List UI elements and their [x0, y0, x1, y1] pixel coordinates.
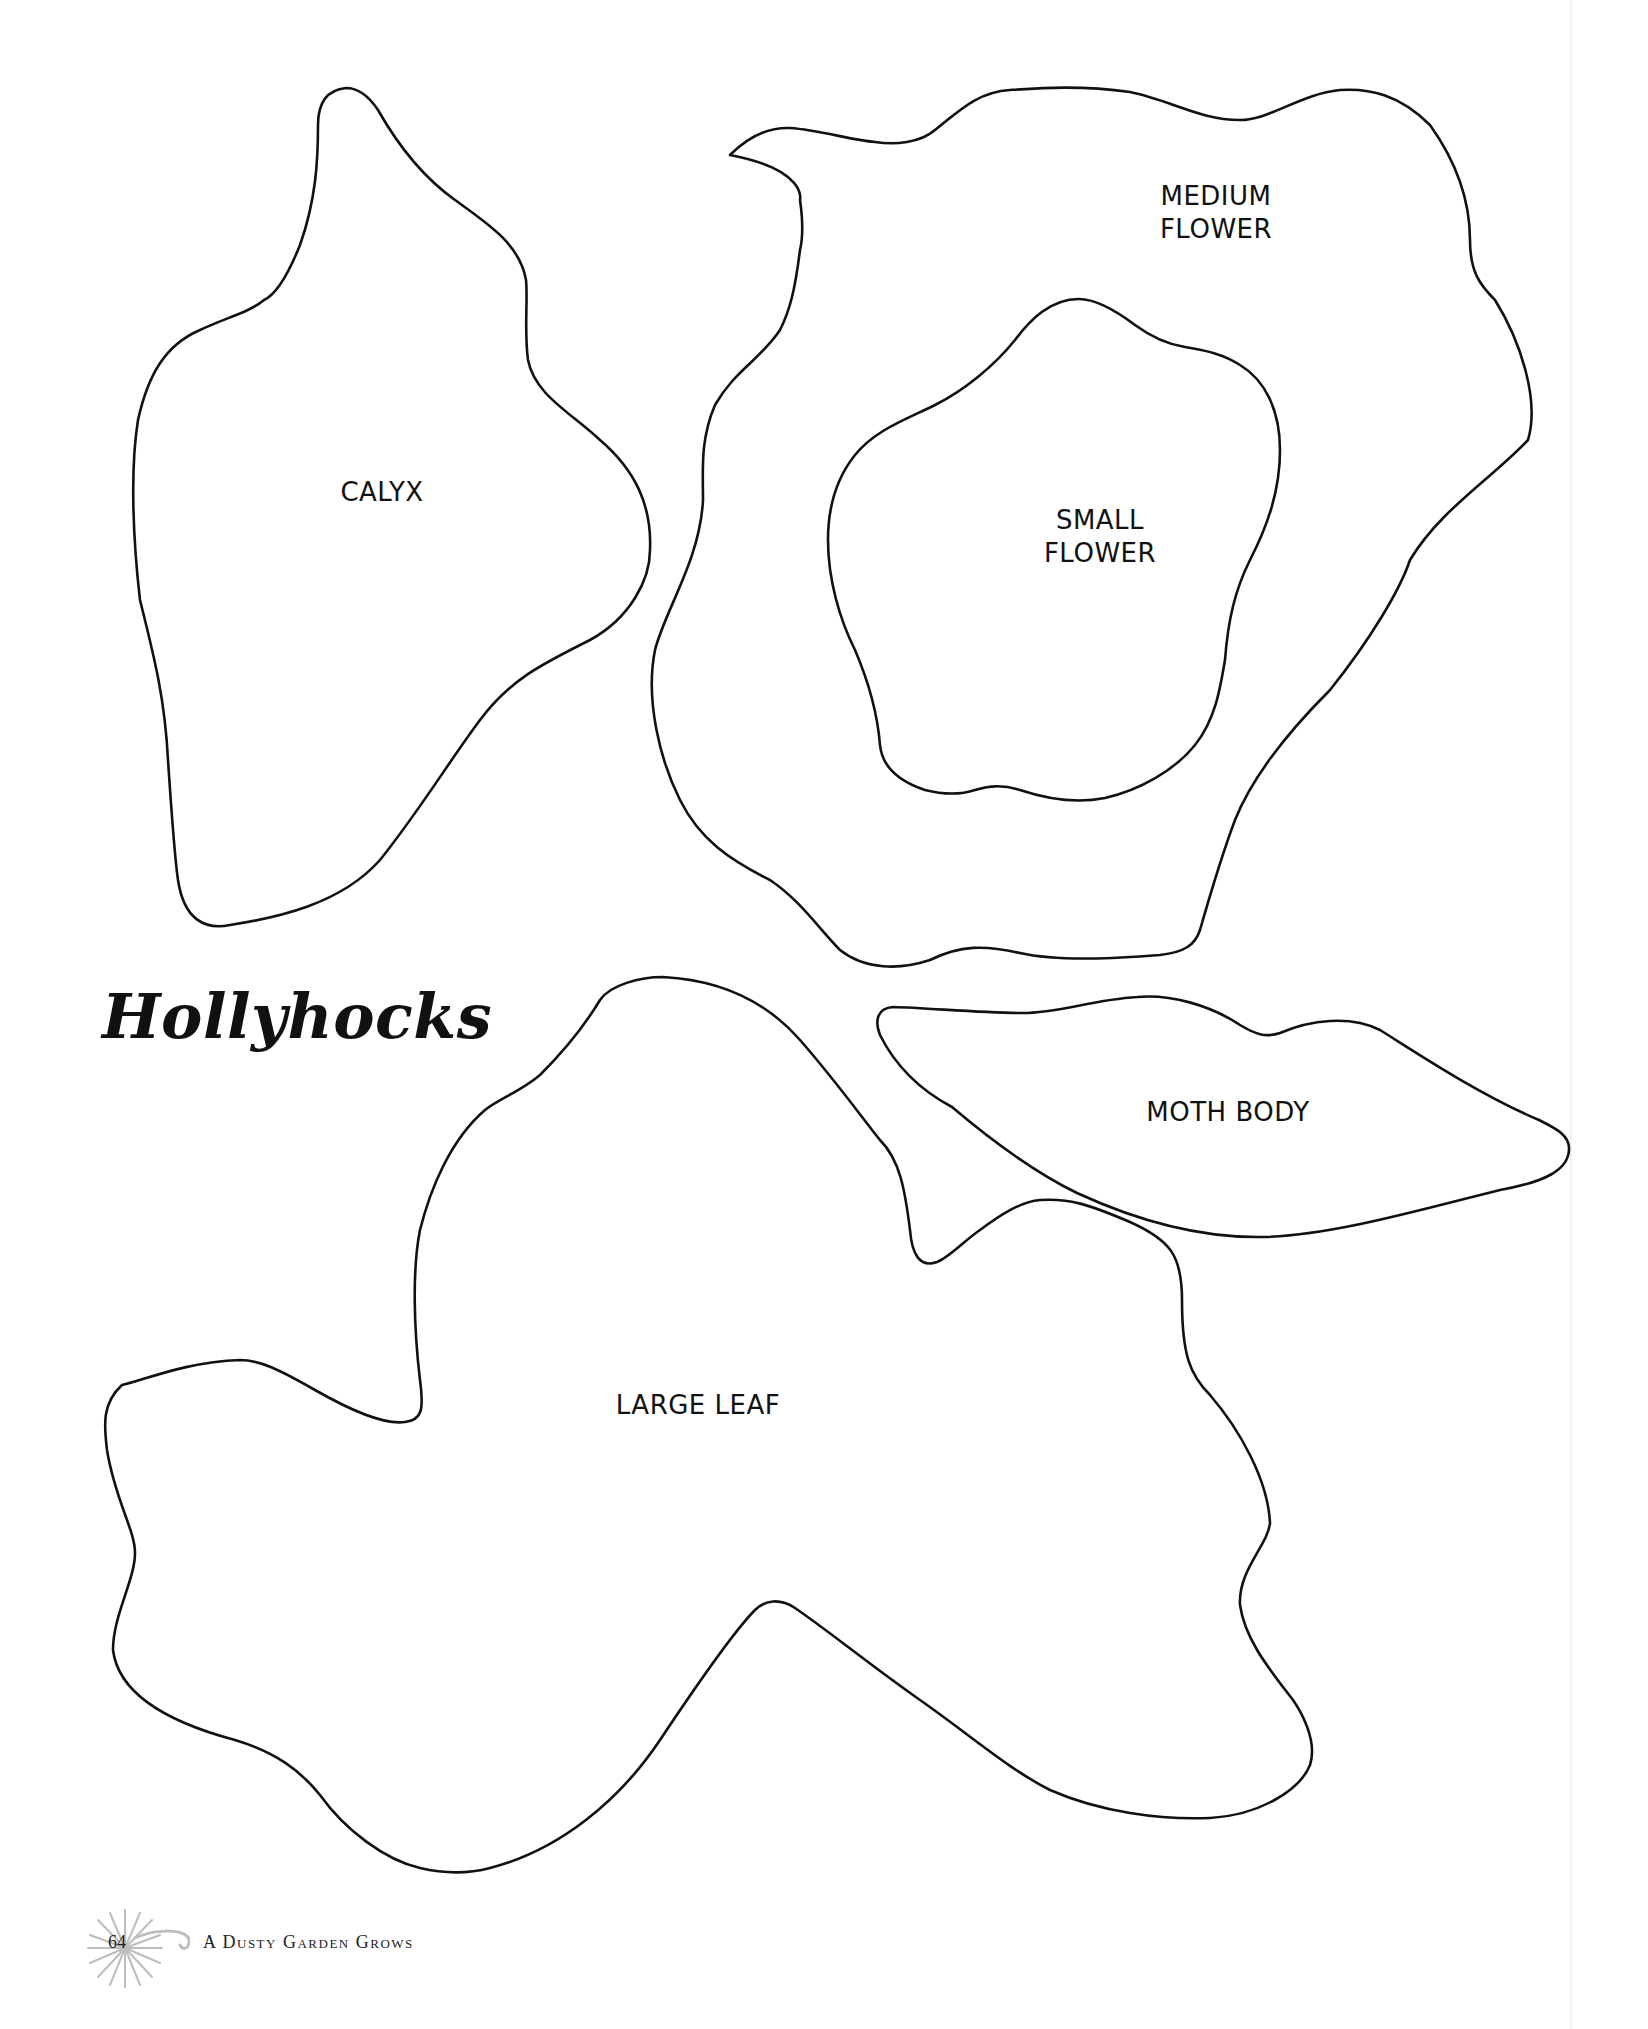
dandelion-starburst-icon	[80, 1905, 190, 1995]
medium-flower-label-line2: FLOWER	[1160, 213, 1272, 246]
small-flower-label-line1: SMALL	[1044, 504, 1156, 537]
large-leaf-outline	[105, 977, 1312, 1872]
running-footer: A Dusty Garden Grows	[203, 1932, 414, 1953]
large-leaf-label: LARGE LEAF	[616, 1389, 780, 1422]
medium-flower-label: MEDIUM FLOWER	[1160, 180, 1272, 246]
small-flower-label: SMALL FLOWER	[1044, 504, 1156, 570]
calyx-label: CALYX	[340, 476, 423, 509]
page-title: Hollyhocks	[102, 980, 492, 1053]
medium-flower-label-line1: MEDIUM	[1160, 180, 1272, 213]
moth-body-label: MOTH BODY	[1146, 1096, 1309, 1129]
page-number: 64	[108, 1932, 126, 1953]
small-flower-label-line2: FLOWER	[1044, 537, 1156, 570]
